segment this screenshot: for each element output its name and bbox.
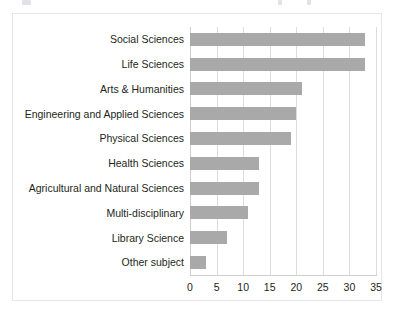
category-label: Health Sciences	[108, 158, 184, 169]
bar	[190, 33, 365, 46]
x-tick-label-0: 0	[187, 280, 193, 294]
bar-row: Other subject	[190, 250, 376, 275]
category-label: Engineering and Applied Sciences	[25, 109, 184, 120]
chart-figure: Social SciencesLife SciencesArts & Human…	[0, 0, 394, 312]
category-label: Agricultural and Natural Sciences	[29, 183, 184, 194]
caption-remnant-left	[22, 0, 31, 5]
x-tick-label-15: 15	[264, 280, 276, 294]
bar	[190, 82, 302, 95]
category-label: Physical Sciences	[99, 133, 184, 144]
bar	[190, 256, 206, 269]
x-tick-label-5: 5	[214, 280, 220, 294]
bar	[190, 206, 248, 219]
bar-row: Health Sciences	[190, 151, 376, 176]
plot-area: Social SciencesLife SciencesArts & Human…	[190, 27, 376, 275]
bar	[190, 107, 296, 120]
x-tick-label-25: 25	[317, 280, 329, 294]
category-label: Life Sciences	[122, 59, 184, 70]
bar-row: Agricultural and Natural Sciences	[190, 176, 376, 201]
caption-remnant-mid	[278, 0, 282, 5]
category-label: Social Sciences	[110, 34, 184, 45]
bar-row: Life Sciences	[190, 52, 376, 77]
x-tick-label-20: 20	[290, 280, 302, 294]
bar-row: Social Sciences	[190, 27, 376, 52]
x-axis-line	[190, 275, 377, 276]
bar-row: Arts & Humanities	[190, 77, 376, 102]
bar	[190, 182, 259, 195]
x-tick-label-35: 35	[370, 280, 382, 294]
bar	[190, 132, 291, 145]
bar	[190, 157, 259, 170]
bar-row: Multi-disciplinary	[190, 201, 376, 226]
x-tick-label-10: 10	[237, 280, 249, 294]
caption-remnant-right	[307, 0, 311, 5]
bar	[190, 231, 227, 244]
category-label: Multi-disciplinary	[106, 208, 184, 219]
category-label: Arts & Humanities	[100, 84, 184, 95]
category-label: Other subject	[122, 257, 184, 268]
bar-row: Physical Sciences	[190, 126, 376, 151]
category-label: Library Science	[112, 233, 184, 244]
bar	[190, 58, 365, 71]
x-tick-label-30: 30	[344, 280, 356, 294]
bar-row: Engineering and Applied Sciences	[190, 101, 376, 126]
bar-row: Library Science	[190, 225, 376, 250]
gridline-35	[376, 27, 377, 275]
x-axis-tick-labels: 05101520253035	[190, 280, 376, 296]
chart-frame: Social SciencesLife SciencesArts & Human…	[12, 13, 382, 301]
